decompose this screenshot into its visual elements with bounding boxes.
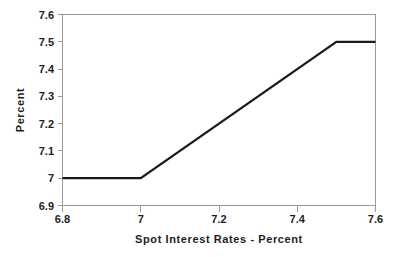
y-axis-tick-labels: 7.6 7.5 7.4 7.3 7.2 7.1 7 6.9 xyxy=(39,9,55,212)
chart-container: 7.6 7.5 7.4 7.3 7.2 7.1 7 6.9 6.8 7 7.2 … xyxy=(0,0,405,257)
plot-frame xyxy=(63,15,376,206)
x-tick-label-7.6: 7.6 xyxy=(368,213,383,225)
y-axis-title: Percent xyxy=(14,88,26,133)
x-axis-tick-labels: 6.8 7 7.2 7.4 7.6 xyxy=(55,213,383,225)
y-tick-label-7: 7 xyxy=(48,172,54,184)
x-axis-title: Spot Interest Rates - Percent xyxy=(135,233,303,245)
x-axis-ticks xyxy=(63,206,376,212)
y-tick-label-7.5: 7.5 xyxy=(39,36,54,48)
y-tick-label-7.4: 7.4 xyxy=(39,63,55,75)
x-tick-label-7.2: 7.2 xyxy=(211,213,226,225)
data-line-capped-floored-rate xyxy=(63,42,376,178)
x-tick-label-7: 7 xyxy=(138,213,144,225)
data-series-group xyxy=(63,42,376,178)
line-chart: 7.6 7.5 7.4 7.3 7.2 7.1 7 6.9 6.8 7 7.2 … xyxy=(0,0,405,257)
y-tick-label-6.9: 6.9 xyxy=(39,200,54,212)
axes-frame xyxy=(63,15,376,206)
y-tick-label-7.1: 7.1 xyxy=(39,145,54,157)
y-axis-ticks xyxy=(58,15,63,206)
x-tick-label-7.4: 7.4 xyxy=(290,213,306,225)
y-tick-label-7.6: 7.6 xyxy=(39,9,54,21)
x-tick-label-6.8: 6.8 xyxy=(55,213,70,225)
y-tick-label-7.2: 7.2 xyxy=(39,118,54,130)
y-tick-label-7.3: 7.3 xyxy=(39,90,54,102)
